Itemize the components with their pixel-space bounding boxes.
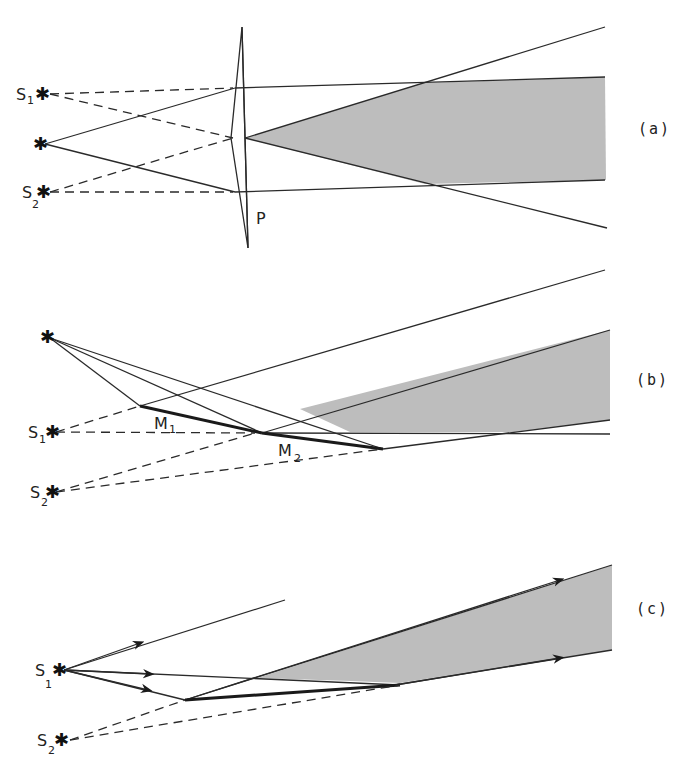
label-s1-b: S — [28, 423, 38, 442]
label-s1-a-sub: 1 — [27, 94, 34, 107]
label-p: P — [256, 209, 266, 228]
lloyds-mirror — [185, 685, 400, 700]
star-icon-source-b: ✱ — [40, 326, 55, 347]
label-m2-sub: 2 — [294, 452, 301, 465]
panel-label-c: (c) — [636, 600, 669, 618]
label-s2-a: S — [22, 183, 32, 202]
label-s1-c: S — [35, 661, 45, 680]
label-s2-b: S — [30, 483, 40, 502]
label-s2-c: S — [37, 731, 47, 750]
star-icon-s1-c: ✱ — [52, 659, 67, 680]
star-icon-s1-b: ✱ — [45, 421, 60, 442]
label-m2: M — [278, 441, 292, 460]
panel-c-lloyds-mirror: ✱ ✱ S 1 S 2 (c) — [35, 565, 669, 757]
label-s2-a-sub: 2 — [32, 198, 39, 211]
panel-b-double-mirror: ✱ ✱ ✱ S 1 S 2 M 1 M 2 (b) — [28, 270, 669, 509]
overlap-region-c — [257, 565, 612, 683]
label-m1: M — [154, 414, 168, 433]
star-icon-s2-c: ✱ — [54, 729, 69, 750]
label-s2-b-sub: 2 — [41, 496, 48, 509]
panel-label-a: (a) — [638, 120, 671, 138]
label-s1-b-sub: 1 — [39, 433, 46, 446]
label-m1-sub: 1 — [169, 423, 176, 436]
label-s1-a: S — [16, 85, 26, 104]
overlap-region-a — [245, 77, 606, 184]
panel-label-b: (b) — [636, 371, 669, 389]
panel-a-biprism: ✱ ✱ ✱ S 1 S 2 P (a) — [16, 27, 671, 248]
label-s2-c-sub: 2 — [48, 744, 55, 757]
label-s1-c-sub: 1 — [45, 678, 52, 691]
interference-diagram: ✱ ✱ ✱ S 1 S 2 P (a) ✱ ✱ ✱ S 1 — [0, 0, 684, 764]
star-icon-source: ✱ — [33, 133, 48, 154]
star-icon-s1: ✱ — [35, 83, 50, 104]
